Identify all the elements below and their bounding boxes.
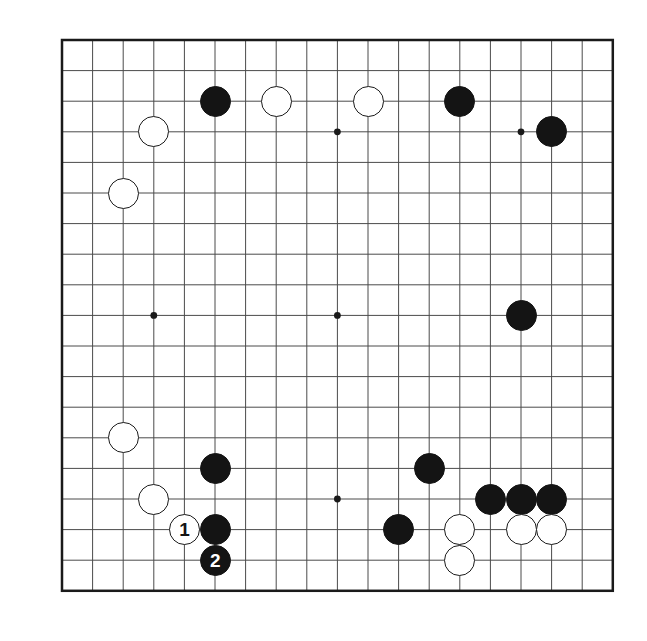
stone-black[interactable] — [506, 484, 537, 515]
stone-black[interactable] — [444, 86, 475, 117]
star-point — [150, 312, 157, 319]
stone-black[interactable] — [475, 484, 506, 515]
stone-black[interactable] — [506, 300, 537, 331]
stone-white[interactable] — [108, 422, 139, 453]
stone-white-move-1[interactable]: 1 — [169, 514, 200, 545]
stone-black[interactable] — [200, 453, 231, 484]
stone-white[interactable] — [444, 545, 475, 576]
stone-black[interactable] — [200, 514, 231, 545]
star-point — [334, 312, 341, 319]
star-point — [334, 128, 341, 135]
stone-white[interactable] — [536, 514, 567, 545]
stone-white[interactable] — [108, 178, 139, 209]
stone-move-number: 2 — [210, 550, 220, 569]
stone-white[interactable] — [138, 484, 169, 515]
stone-white[interactable] — [506, 514, 537, 545]
stone-black[interactable] — [200, 86, 231, 117]
star-point — [334, 496, 341, 503]
stone-move-number: 1 — [179, 520, 189, 539]
stone-black[interactable] — [536, 484, 567, 515]
stone-black[interactable] — [383, 514, 414, 545]
star-point — [518, 128, 525, 135]
stone-white[interactable] — [261, 86, 292, 117]
stone-white[interactable] — [353, 86, 384, 117]
go-board-figure: 12 — [0, 0, 647, 641]
stone-black-move-2[interactable]: 2 — [200, 545, 231, 576]
stone-black[interactable] — [414, 453, 445, 484]
